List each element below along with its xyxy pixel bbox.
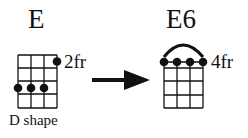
chord-from-dots xyxy=(14,57,62,92)
chord-from-grid xyxy=(18,55,57,108)
barre-arc-icon xyxy=(164,45,203,57)
chord-diagrams xyxy=(0,0,248,138)
chord-to-grid xyxy=(164,62,203,108)
right-arrow-icon xyxy=(92,70,150,90)
